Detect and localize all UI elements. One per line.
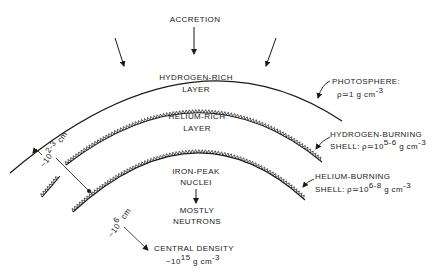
hydrogen-rich-label-line2: LAYER [182,85,210,94]
central-density-label: CENTRAL DENSITY [154,244,234,253]
helium-burning-leader [303,179,314,187]
iron-peak-label-line2: NUCLEI [180,178,212,187]
central-density-value: ~1015 g cm-3 [166,253,220,266]
hydrogen-burning-label: HYDROGEN-BURNING [330,130,422,139]
photosphere-label: PHOTOSPHERE: [332,77,400,86]
accretion-arrow-left [115,38,124,66]
helium-burning-label: HELIUM-BURNING [315,172,390,181]
helium-rich-label-line2: LAYER [183,124,211,133]
mostly-neutrons-label-line1: MOSTLY [180,206,215,215]
hydrogen-rich-label-line1: HYDROGEN-RICH [159,73,233,82]
accretion-arrows [115,27,276,66]
radius-label: ~106 cm [103,204,133,239]
neutron-star-layers-diagram: ACCRETION HYDROGEN-RICH LAYER HELIUM-RIC… [0,0,438,279]
radius-dimension: ~106 cm [56,158,148,250]
photosphere-density: ρ≃1 g cm-3 [337,86,384,99]
photosphere-leader [318,81,330,98]
hydrogen-burning-density: SHELL:ρ≃105-6 g cm-3 [330,138,426,151]
photosphere-arc [10,81,342,173]
helium-burning-density: SHELL:ρ≃106-8 g cm-3 [315,181,411,194]
thickness-dimension: ~102-3 cm [33,128,70,170]
radius-marker-dot [87,189,91,193]
iron-peak-label-line1: IRON-PEAK [172,167,220,176]
shell-zigzag-teeth [41,177,59,197]
accretion-arrow-right [266,38,276,66]
mostly-neutrons-label-line2: NEUTRONS [173,217,221,226]
helium-rich-label-line1: HELIUM-RICH [169,112,226,121]
accretion-label: ACCRETION [170,15,221,24]
hydrogen-burning-leader [316,137,330,149]
